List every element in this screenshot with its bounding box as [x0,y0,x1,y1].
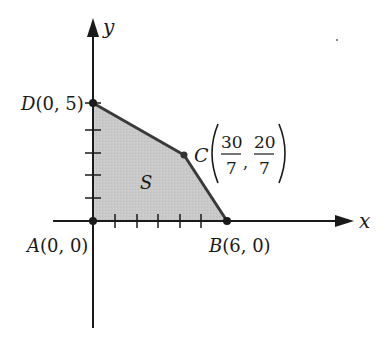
vertex-d-label: D(0, 5) [20,93,84,114]
feasible-region-diagram: x y S D(0, 5) A(0, 0) B(6, 0) C 30 7 , 2… [0,0,387,348]
vertex-b-point [223,217,231,225]
c-x-denominator: 7 [226,158,237,178]
y-axis-arrow-icon [87,18,99,37]
c-y-numerator: 20 [254,132,276,152]
x-axis-label: x [359,209,370,233]
c-x-numerator: 30 [221,132,243,152]
left-paren [212,124,218,183]
vertex-d-point [89,99,97,107]
x-axis-arrow-icon [335,215,354,227]
vertex-c-name: C [194,144,209,166]
vertex-c-point [181,152,188,159]
region-label: S [140,172,152,193]
vertex-c-label: C 30 7 , 20 7 [194,124,285,183]
vertex-a-point [89,217,97,225]
c-y-denominator: 7 [259,158,270,178]
scan-speck [336,39,338,41]
right-paren [279,124,285,183]
vertex-b-label: B(6, 0) [208,235,271,256]
vertex-a-label: A(0, 0) [25,235,88,256]
c-comma: , [243,153,248,172]
y-axis-label: y [102,15,115,39]
